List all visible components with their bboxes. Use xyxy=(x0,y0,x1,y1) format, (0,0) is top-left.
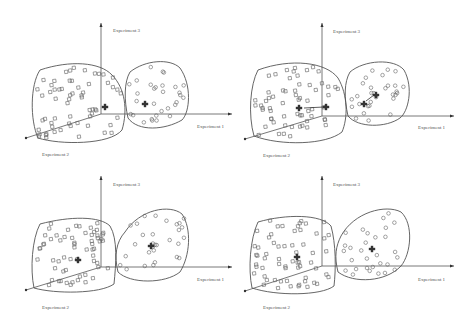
square-marker xyxy=(84,273,88,277)
square-marker xyxy=(281,224,285,228)
square-marker xyxy=(116,88,120,92)
square-marker xyxy=(296,224,300,228)
square-marker xyxy=(293,229,297,233)
square-marker xyxy=(309,261,313,265)
square-marker xyxy=(310,114,314,118)
circle-marker xyxy=(177,242,181,246)
square-marker xyxy=(336,87,340,91)
arrow-head-icon xyxy=(450,115,454,118)
square-marker xyxy=(96,221,100,225)
square-marker xyxy=(290,125,294,129)
square-marker xyxy=(307,109,311,113)
square-marker xyxy=(291,259,295,263)
diagram-bottom-left: Experiment 3Experiment 1Experiment 2 xyxy=(25,176,232,310)
square-marker xyxy=(264,99,268,103)
circle-marker xyxy=(135,79,139,83)
label-experiment-1: Experiment 1 xyxy=(197,277,225,282)
square-marker xyxy=(281,101,285,105)
square-marker xyxy=(265,278,269,282)
square-marker xyxy=(50,121,54,125)
square-marker xyxy=(53,88,57,92)
square-marker xyxy=(289,285,293,289)
circle-marker xyxy=(125,267,129,271)
diagram-top-right: Experiment 3Experiment 1Experiment 2 xyxy=(244,23,454,158)
circle-marker xyxy=(366,231,370,235)
cluster-boundary-a xyxy=(32,64,125,143)
cluster-boundary-a xyxy=(250,216,335,293)
square-marker xyxy=(267,74,271,78)
square-marker xyxy=(77,86,81,90)
circle-marker xyxy=(342,249,346,253)
label-experiment-3: Experiment 3 xyxy=(113,182,141,187)
circle-marker xyxy=(355,94,359,98)
square-marker xyxy=(97,72,101,76)
circle-marker xyxy=(374,236,378,240)
square-marker xyxy=(277,245,281,249)
square-marker xyxy=(87,82,91,86)
circle-marker xyxy=(136,92,140,96)
square-marker xyxy=(110,131,114,135)
square-marker xyxy=(50,83,54,87)
square-marker xyxy=(317,70,321,74)
square-marker xyxy=(299,228,303,232)
square-marker xyxy=(301,124,305,128)
circle-marker xyxy=(344,231,348,235)
square-marker xyxy=(95,261,99,265)
circle-marker xyxy=(391,93,395,97)
square-marker xyxy=(66,101,70,105)
square-marker xyxy=(53,130,57,134)
square-marker xyxy=(263,275,267,279)
circle-marker xyxy=(149,65,153,69)
square-marker xyxy=(58,88,62,92)
square-marker xyxy=(295,251,299,255)
square-marker xyxy=(53,117,57,121)
panel-bottom-left: Experiment 3Experiment 1Experiment 2 xyxy=(0,164,236,327)
circle-marker xyxy=(151,233,155,237)
square-marker xyxy=(62,256,66,260)
square-marker xyxy=(290,244,294,248)
panel-bottom-right: Experiment 3Experiment 1Experiment 2 xyxy=(236,164,472,327)
arrow-head-icon xyxy=(450,265,454,268)
square-marker xyxy=(252,272,256,276)
square-marker xyxy=(71,281,75,285)
circle-marker xyxy=(361,82,365,86)
square-marker xyxy=(83,68,87,72)
square-marker xyxy=(91,276,95,280)
square-marker xyxy=(304,222,308,226)
square-marker xyxy=(72,66,76,70)
circle-marker xyxy=(351,273,355,277)
square-marker xyxy=(77,135,81,139)
square-marker xyxy=(314,88,318,92)
square-marker xyxy=(69,283,73,287)
circle-marker xyxy=(379,262,383,266)
circle-marker xyxy=(402,85,406,89)
square-marker xyxy=(292,70,296,74)
square-marker xyxy=(267,91,271,95)
square-marker xyxy=(277,257,281,261)
square-marker xyxy=(66,228,70,232)
square-marker xyxy=(327,233,331,237)
circle-marker xyxy=(350,258,354,262)
diagram-bottom-right: Experiment 3Experiment 1Experiment 2 xyxy=(244,176,454,310)
square-marker xyxy=(276,225,280,229)
circle-marker xyxy=(382,216,386,220)
square-marker xyxy=(47,283,51,287)
square-marker xyxy=(326,85,330,89)
circle-marker xyxy=(160,109,164,113)
square-marker xyxy=(255,253,259,257)
square-marker xyxy=(53,266,57,270)
square-marker xyxy=(285,68,289,72)
square-marker xyxy=(288,76,292,80)
square-marker xyxy=(69,257,73,261)
square-marker xyxy=(40,94,44,98)
square-marker xyxy=(256,246,260,250)
circle-marker xyxy=(155,119,159,123)
centroid-cross-icon xyxy=(142,101,148,107)
square-marker xyxy=(55,234,59,238)
square-marker xyxy=(334,85,338,89)
square-marker xyxy=(36,88,40,92)
circle-marker xyxy=(350,98,354,102)
square-marker xyxy=(271,95,275,99)
circle-marker xyxy=(393,221,397,225)
label-experiment-2: Experiment 2 xyxy=(263,153,291,158)
